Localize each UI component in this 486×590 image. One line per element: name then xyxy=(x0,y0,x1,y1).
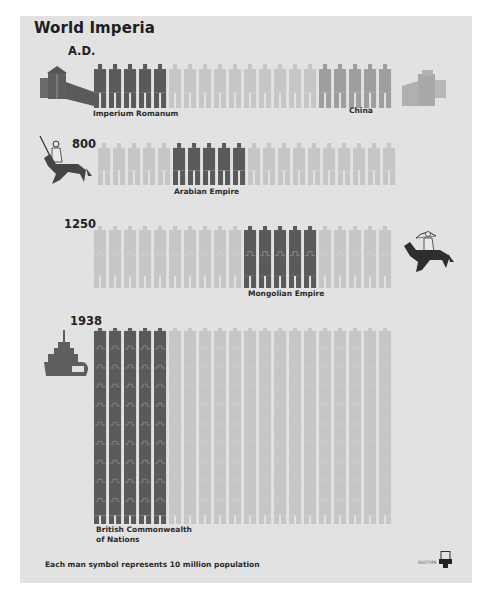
man-symbol xyxy=(318,226,332,288)
label-british-commonwealth: British Commonwealth of Nations xyxy=(96,525,192,545)
man-symbol xyxy=(333,64,347,108)
man-symbol xyxy=(367,143,381,185)
man-symbol xyxy=(243,328,257,524)
fortress-wall-icon xyxy=(38,64,94,106)
battleship-icon xyxy=(42,330,90,378)
row-1250-symbols xyxy=(93,226,393,288)
man-symbol xyxy=(382,143,396,185)
isotype-logo: ISOTYPE xyxy=(418,551,452,568)
man-symbol xyxy=(108,328,122,524)
man-symbol xyxy=(333,226,347,288)
man-symbol xyxy=(108,226,122,288)
man-symbol xyxy=(288,328,302,524)
year-label-1938: 1938 xyxy=(70,314,102,328)
man-symbol xyxy=(258,226,272,288)
row-800-symbols xyxy=(97,143,397,185)
man-symbol xyxy=(303,64,317,108)
man-symbol xyxy=(378,64,392,108)
man-symbol xyxy=(258,64,272,108)
man-symbol xyxy=(213,64,227,108)
man-symbol xyxy=(168,328,182,524)
man-symbol xyxy=(153,328,167,524)
man-symbol xyxy=(183,64,197,108)
row-ad-symbols xyxy=(93,64,393,108)
great-wall-icon xyxy=(402,68,447,106)
chart-title: World Imperia xyxy=(34,19,155,37)
man-symbol xyxy=(288,226,302,288)
man-symbol xyxy=(157,143,171,185)
man-symbol xyxy=(153,226,167,288)
man-symbol xyxy=(138,328,152,524)
isotype-text: ISOTYPE xyxy=(418,560,437,565)
man-symbol xyxy=(243,64,257,108)
man-symbol xyxy=(108,64,122,108)
man-symbol xyxy=(93,226,107,288)
man-symbol xyxy=(123,64,137,108)
man-symbol xyxy=(127,143,141,185)
man-symbol xyxy=(378,328,392,524)
man-symbol xyxy=(228,328,242,524)
man-symbol xyxy=(288,64,302,108)
man-symbol xyxy=(258,328,272,524)
man-symbol xyxy=(273,64,287,108)
man-symbol xyxy=(363,64,377,108)
man-symbol xyxy=(322,143,336,185)
man-symbol xyxy=(363,328,377,524)
man-symbol xyxy=(303,226,317,288)
man-symbol xyxy=(363,226,377,288)
man-symbol xyxy=(378,226,392,288)
label-arabian-empire: Arabian Empire xyxy=(174,187,239,197)
man-symbol xyxy=(273,226,287,288)
label-china: China xyxy=(349,106,373,116)
man-symbol xyxy=(138,226,152,288)
man-symbol xyxy=(202,143,216,185)
man-symbol xyxy=(273,328,287,524)
man-symbol xyxy=(187,143,201,185)
isotype-logo-icon xyxy=(439,551,452,568)
man-symbol xyxy=(292,143,306,185)
row-1938-symbols xyxy=(93,328,393,524)
man-symbol xyxy=(352,143,366,185)
label-line-1: British Commonwealth xyxy=(96,525,192,535)
horseman-with-spear-icon xyxy=(38,134,93,188)
man-symbol xyxy=(198,226,212,288)
man-symbol xyxy=(93,64,107,108)
man-symbol xyxy=(198,64,212,108)
man-symbol xyxy=(318,328,332,524)
man-symbol xyxy=(348,328,362,524)
man-symbol xyxy=(348,64,362,108)
unit-note: Each man symbol represents 10 million po… xyxy=(45,560,260,569)
man-symbol xyxy=(168,226,182,288)
man-symbol xyxy=(142,143,156,185)
man-symbol xyxy=(168,64,182,108)
man-symbol xyxy=(183,226,197,288)
man-symbol xyxy=(93,328,107,524)
man-symbol xyxy=(123,226,137,288)
man-symbol xyxy=(123,328,137,524)
man-symbol xyxy=(243,226,257,288)
man-symbol xyxy=(198,328,212,524)
year-label-ad: A.D. xyxy=(68,44,95,58)
man-symbol xyxy=(232,143,246,185)
man-symbol xyxy=(318,64,332,108)
man-symbol xyxy=(303,328,317,524)
man-symbol xyxy=(333,328,347,524)
man-symbol xyxy=(138,64,152,108)
mounted-archer-icon xyxy=(402,228,454,274)
label-imperium-romanum: Imperium Romanum xyxy=(93,109,178,119)
label-line-2: of Nations xyxy=(96,535,192,545)
man-symbol xyxy=(97,143,111,185)
man-symbol xyxy=(112,143,126,185)
man-symbol xyxy=(228,64,242,108)
man-symbol xyxy=(183,328,197,524)
man-symbol xyxy=(277,143,291,185)
label-mongolian-empire: Mongolian Empire xyxy=(248,289,324,299)
man-symbol xyxy=(307,143,321,185)
man-symbol xyxy=(228,226,242,288)
man-symbol xyxy=(153,64,167,108)
man-symbol xyxy=(172,143,186,185)
man-symbol xyxy=(213,226,227,288)
man-symbol xyxy=(262,143,276,185)
man-symbol xyxy=(217,143,231,185)
man-symbol xyxy=(247,143,261,185)
